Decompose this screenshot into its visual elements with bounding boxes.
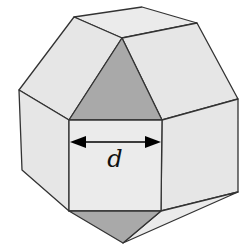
polyhedron-diagram: d bbox=[0, 0, 251, 248]
dimension-label: d bbox=[107, 145, 122, 173]
